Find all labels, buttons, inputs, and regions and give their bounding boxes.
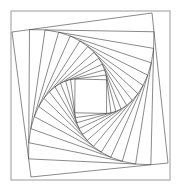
spiral-quad-3 (31, 32, 152, 161)
spiral-quad-6 (44, 46, 138, 146)
spiral-quad-7 (49, 52, 132, 140)
spiral-quad-12 (75, 79, 107, 113)
spiral-quad-4 (34, 36, 147, 157)
whirling-squares-group (12, 13, 168, 177)
spiral-quad-11 (71, 75, 111, 118)
spiral-quad-5 (39, 41, 143, 152)
geometric-figure-container (0, 0, 181, 194)
spiral-figure-canvas (0, 0, 181, 194)
